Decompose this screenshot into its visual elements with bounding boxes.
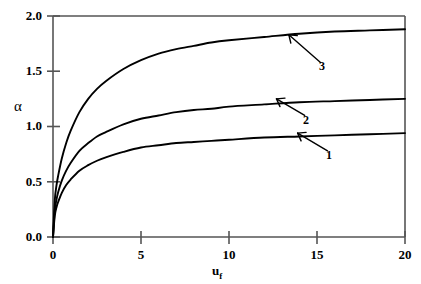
y-tick-label-0.0: 0.0 <box>8 230 42 243</box>
y-tick-label-1.0: 1.0 <box>8 119 42 132</box>
plot-frame <box>53 16 405 237</box>
curve-series-1 <box>53 133 405 237</box>
x-axis-label: uf <box>212 264 222 281</box>
y-tick-label-0.5: 0.5 <box>8 175 42 188</box>
curve-label-1: 1 <box>326 149 332 161</box>
y-axis-label: α <box>14 99 22 114</box>
x-tick-label-5: 5 <box>126 248 156 261</box>
annotation-arrows <box>277 35 328 151</box>
y-tick-label-1.5: 1.5 <box>8 64 42 77</box>
plot-canvas <box>0 0 421 284</box>
x-axis-label-subscript: f <box>219 271 222 281</box>
x-tick-label-15: 15 <box>302 248 332 261</box>
chart-figure: 2.0 1.5 1.0 0.5 0.0 0 5 10 15 20 α uf 1 … <box>0 0 421 284</box>
arrow-to-curve-2 <box>277 98 305 115</box>
curve-series-3 <box>53 29 405 237</box>
curve-label-3: 3 <box>319 60 325 72</box>
arrow-to-curve-3 <box>289 35 321 63</box>
curve-label-2: 2 <box>303 114 309 126</box>
data-curves <box>53 29 405 237</box>
axis-ticks <box>47 16 405 244</box>
x-tick-label-10: 10 <box>214 248 244 261</box>
x-tick-label-20: 20 <box>390 248 420 261</box>
x-tick-label-0: 0 <box>38 248 68 261</box>
y-tick-label-2.0: 2.0 <box>8 9 42 22</box>
curve-series-2 <box>53 99 405 237</box>
